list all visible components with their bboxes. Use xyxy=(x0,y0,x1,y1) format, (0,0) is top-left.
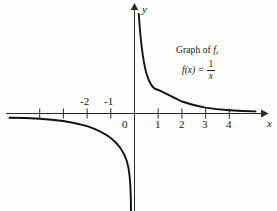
curve-left-branch xyxy=(10,118,132,211)
x-tick-label-4: 4 xyxy=(226,119,232,130)
origin-label: 0 xyxy=(122,119,128,130)
formula-fraction: 1 x xyxy=(207,60,216,82)
formula-left-side: f(x) xyxy=(182,65,195,77)
figure-1-over-x-graph: -2 -1 0 1 2 3 4 x y Graph of f, f(x) = 1… xyxy=(0,0,277,211)
y-axis-arrow-icon xyxy=(131,3,139,10)
annotation-title-suffix: , xyxy=(216,45,218,55)
annotation-title-line: Graph of f, xyxy=(176,45,272,57)
y-axis-label: y xyxy=(142,4,147,15)
x-tick-label-3: 3 xyxy=(202,119,208,130)
formula-denominator: x xyxy=(207,72,215,82)
formula-equals-sign: = xyxy=(198,65,203,77)
graph-annotation: Graph of f, f(x) = 1 x xyxy=(176,45,272,82)
x-tick-label-2: 2 xyxy=(179,119,185,130)
annotation-formula: f(x) = 1 x xyxy=(182,60,272,82)
annotation-title-prefix: Graph of xyxy=(176,45,213,55)
plot-canvas xyxy=(0,0,277,211)
x-tick-label-neg-2: -2 xyxy=(80,96,89,107)
x-tick-label-1: 1 xyxy=(155,119,161,130)
x-tick-label-neg-1: -1 xyxy=(104,96,113,107)
x-axis-label: x xyxy=(267,118,272,129)
formula-numerator: 1 xyxy=(207,60,216,70)
